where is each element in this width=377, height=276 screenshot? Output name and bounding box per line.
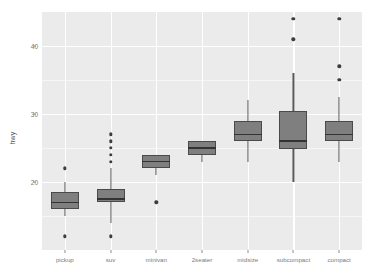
outlier-point[interactable] [63, 235, 66, 238]
whisker-lower [339, 141, 340, 161]
outlier-point[interactable] [109, 133, 112, 136]
x-axis-tick-label-minivan: minivan [146, 256, 167, 263]
x-axis-tick-mark [247, 250, 248, 253]
boxplot-box-subcompact[interactable] [271, 12, 317, 250]
boxplot-box-suv[interactable] [88, 12, 134, 250]
box-iqr [325, 121, 353, 141]
outlier-point[interactable] [109, 235, 112, 238]
x-axis-tick-label-subcompact: subcompact [277, 256, 310, 263]
whisker-lower [201, 155, 202, 162]
whisker-lower [247, 141, 248, 161]
box-iqr [97, 189, 125, 203]
boxplot-chart: hwy 203040 pickupsuvminivan2seatermidsiz… [0, 0, 377, 276]
whisker-upper [339, 97, 340, 121]
x-axis-tick-label-2seater: 2seater [192, 256, 213, 263]
box-iqr [234, 121, 262, 141]
outlier-point[interactable] [292, 17, 295, 20]
whisker-lower [156, 168, 157, 175]
x-axis-tick-mark [64, 250, 65, 253]
median-line [97, 198, 125, 200]
x-axis-tick-mark [202, 250, 203, 253]
y-axis-tick-label: 30 [22, 111, 38, 118]
median-line [188, 147, 216, 149]
y-axis-tick-mark [33, 114, 36, 115]
outlier-point[interactable] [337, 65, 340, 68]
median-line [142, 161, 170, 163]
outlier-point[interactable] [109, 160, 112, 163]
x-axis-tick-mark [293, 250, 294, 253]
median-line [325, 134, 353, 136]
plot-panel [42, 12, 362, 250]
whisker-upper [293, 73, 294, 110]
boxplot-box-2seater[interactable] [179, 12, 225, 250]
y-axis-tick-mark [33, 46, 36, 47]
boxplot-box-compact[interactable] [316, 12, 362, 250]
boxplot-box-pickup[interactable] [42, 12, 88, 250]
outlier-point[interactable] [337, 78, 340, 81]
y-axis-tick-label: 20 [22, 179, 38, 186]
whisker-lower [110, 202, 111, 222]
outlier-point[interactable] [337, 17, 340, 20]
x-axis-tick-mark [339, 250, 340, 253]
median-line [279, 140, 307, 142]
x-axis-tick-mark [156, 250, 157, 253]
outlier-point[interactable] [109, 139, 112, 142]
whisker-lower [293, 149, 294, 182]
whisker-upper [64, 182, 65, 192]
y-axis-tick-labels: 203040 [14, 0, 38, 276]
boxplot-box-midsize[interactable] [225, 12, 271, 250]
median-line [234, 134, 262, 136]
outlier-point[interactable] [63, 167, 66, 170]
whisker-lower [64, 209, 65, 216]
box-iqr [279, 111, 307, 150]
y-axis-tick-mark [33, 182, 36, 183]
x-axis-tick-label-midsize: midsize [237, 256, 258, 263]
x-axis-tick-label-compact: compact [327, 256, 350, 263]
whisker-upper [110, 168, 111, 188]
outlier-point[interactable] [109, 146, 112, 149]
boxplot-box-minivan[interactable] [133, 12, 179, 250]
x-axis-tick-mark [110, 250, 111, 253]
outlier-point[interactable] [155, 201, 158, 204]
x-axis-tick-label-suv: suv [106, 256, 116, 263]
median-line [51, 202, 79, 204]
x-axis-tick-label-pickup: pickup [56, 256, 74, 263]
y-axis-tick-label: 40 [22, 43, 38, 50]
outlier-point[interactable] [109, 153, 112, 156]
outlier-point[interactable] [292, 37, 295, 40]
whisker-upper [247, 100, 248, 120]
